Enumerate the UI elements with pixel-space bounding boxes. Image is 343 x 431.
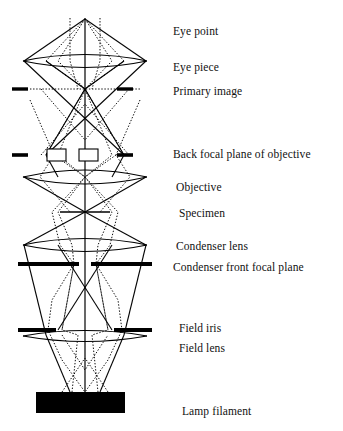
label-back-focal-plane-objective: Back focal plane of objective [173,148,311,161]
label-condenser-lens: Condenser lens [176,240,248,253]
label-primary-image: Primary image [173,85,242,98]
label-eye-point: Eye point [173,25,218,38]
label-specimen: Specimen [179,207,225,220]
label-layer: Eye point Eye piece Primary image Back f… [0,0,343,431]
label-objective: Objective [176,181,222,194]
optical-path-figure: Eye point Eye piece Primary image Back f… [0,0,343,431]
label-condenser-front-focal-plane: Condenser front focal plane [173,261,304,274]
label-lamp-filament: Lamp filament [182,405,251,418]
label-field-lens: Field lens [179,342,225,355]
label-eye-piece: Eye piece [173,61,219,74]
label-field-iris: Field iris [179,322,221,335]
